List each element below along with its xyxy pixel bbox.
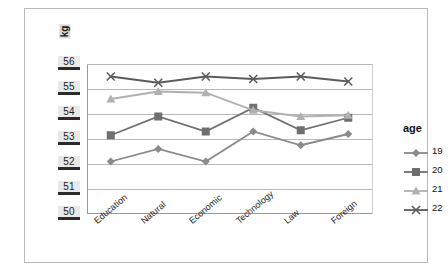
y-axis-tick-label: 53 — [58, 131, 80, 145]
square-marker — [412, 168, 420, 176]
y-axis-tick-label: 50 — [58, 206, 80, 220]
y-axis-tick-label: 52 — [58, 156, 80, 170]
legend-label: 19 — [432, 145, 443, 156]
y-axis-tick-value: 51 — [58, 181, 80, 195]
triangle-marker — [403, 183, 429, 195]
legend-item-20[interactable]: 20 — [403, 160, 448, 179]
y-axis-tick-value: 54 — [58, 106, 80, 120]
x-marker — [403, 202, 429, 214]
legend: age 19202122 — [403, 122, 448, 217]
legend-label: 22 — [432, 202, 443, 213]
square-marker — [202, 128, 210, 136]
y-axis-tick-value: 56 — [58, 56, 80, 70]
y-axis-tick-label: 54 — [58, 106, 80, 120]
y-axis-tick-label: 55 — [58, 81, 80, 95]
legend-item-22[interactable]: 22 — [403, 198, 448, 217]
chart-container: kg age 19202122 56555453525150EducationN… — [24, 8, 428, 263]
square-marker — [107, 131, 115, 139]
diamond-marker — [344, 130, 352, 138]
series-line — [111, 92, 349, 117]
diamond-marker — [297, 141, 305, 149]
series-21 — [106, 87, 353, 120]
diamond-marker — [107, 158, 115, 166]
y-axis-tick-value: 53 — [58, 131, 80, 145]
legend-label: 21 — [432, 183, 443, 194]
square-marker — [297, 126, 305, 134]
series-line — [111, 132, 349, 162]
legend-item-19[interactable]: 19 — [403, 141, 448, 160]
diamond-marker — [412, 149, 420, 157]
series-line — [111, 77, 349, 83]
legend-title: age — [403, 122, 448, 134]
series-22 — [107, 73, 353, 87]
square-marker — [154, 113, 162, 121]
plot-right-border — [372, 64, 373, 214]
y-axis-tick-value: 50 — [58, 206, 80, 220]
diamond-marker — [154, 145, 162, 153]
square-marker — [403, 164, 429, 176]
diamond-marker — [403, 145, 429, 157]
legend-label: 20 — [432, 164, 443, 175]
y-axis-tick-label: 56 — [58, 56, 80, 70]
series-line — [111, 108, 349, 136]
y-axis-unit-label: kg — [54, 20, 76, 42]
legend-item-21[interactable]: 21 — [403, 179, 448, 198]
series-20 — [107, 104, 353, 140]
y-axis-tick-label: 51 — [58, 181, 80, 195]
series-19 — [107, 128, 353, 166]
y-axis-tick-value: 52 — [58, 156, 80, 170]
series-layer — [87, 64, 372, 214]
y-axis-tick-value: 55 — [58, 81, 80, 95]
